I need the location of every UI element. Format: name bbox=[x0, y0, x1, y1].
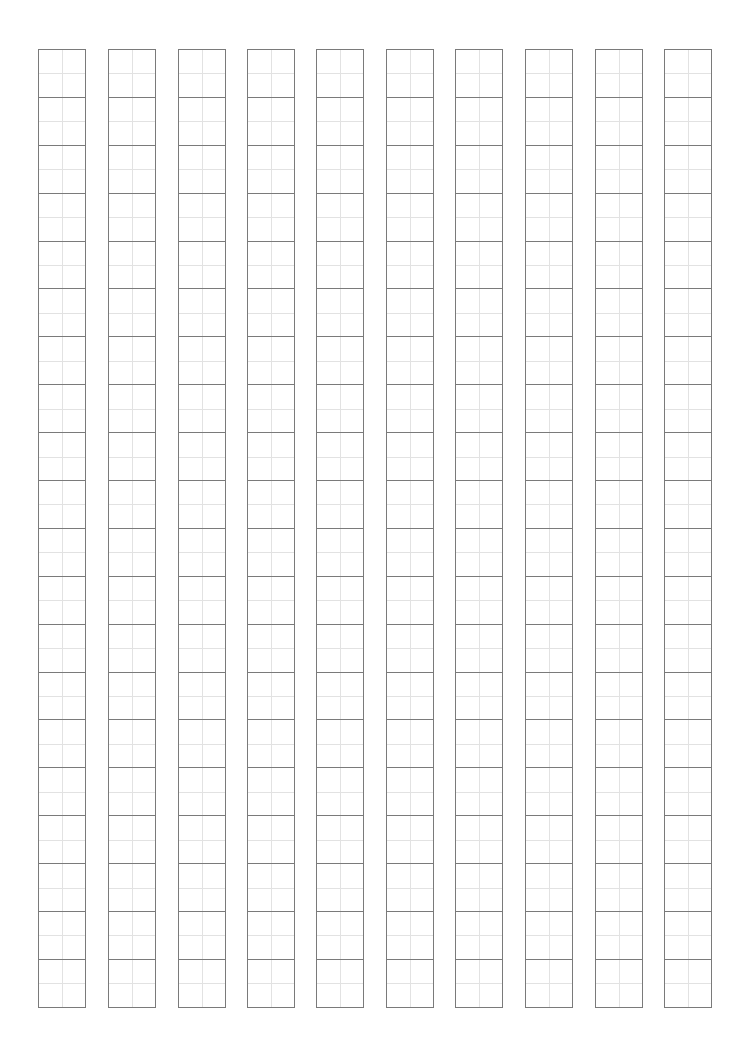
grid-cell bbox=[665, 673, 711, 721]
grid-cell bbox=[248, 673, 294, 721]
grid-cell bbox=[317, 768, 363, 816]
grid-cell bbox=[317, 625, 363, 673]
grid-cell bbox=[39, 337, 85, 385]
grid-cell bbox=[39, 385, 85, 433]
grid-cell bbox=[387, 50, 433, 98]
grid-cell bbox=[179, 289, 225, 337]
grid-cell bbox=[109, 481, 155, 529]
grid-cell bbox=[179, 529, 225, 577]
grid-cell bbox=[596, 720, 642, 768]
grid-cell bbox=[317, 529, 363, 577]
grid-column-2 bbox=[108, 49, 156, 1008]
grid-cell bbox=[456, 673, 502, 721]
grid-cell bbox=[109, 98, 155, 146]
grid-cell bbox=[596, 768, 642, 816]
grid-cell bbox=[39, 720, 85, 768]
grid-cell bbox=[248, 577, 294, 625]
grid-cell bbox=[526, 673, 572, 721]
grid-cell bbox=[248, 433, 294, 481]
grid-cell bbox=[248, 385, 294, 433]
grid-cell bbox=[317, 912, 363, 960]
grid-cell bbox=[456, 50, 502, 98]
grid-cell bbox=[109, 433, 155, 481]
grid-cell bbox=[39, 433, 85, 481]
grid-cell bbox=[109, 768, 155, 816]
grid-cell bbox=[596, 385, 642, 433]
grid-cell bbox=[387, 289, 433, 337]
grid-cell bbox=[665, 433, 711, 481]
grid-cell bbox=[317, 481, 363, 529]
grid-cell bbox=[387, 960, 433, 1007]
grid-cell bbox=[179, 98, 225, 146]
grid-cell bbox=[39, 194, 85, 242]
grid-column-3 bbox=[178, 49, 226, 1008]
grid-cell bbox=[387, 720, 433, 768]
grid-cell bbox=[39, 481, 85, 529]
grid-cell bbox=[248, 625, 294, 673]
grid-cell bbox=[456, 242, 502, 290]
grid-cell bbox=[109, 912, 155, 960]
grid-column-6 bbox=[386, 49, 434, 1008]
grid-column-1 bbox=[38, 49, 86, 1008]
grid-cell bbox=[248, 242, 294, 290]
grid-cell bbox=[387, 673, 433, 721]
grid-cell bbox=[109, 337, 155, 385]
grid-cell bbox=[596, 146, 642, 194]
grid-cell bbox=[387, 337, 433, 385]
grid-cell bbox=[317, 385, 363, 433]
grid-cell bbox=[317, 816, 363, 864]
grid-cell bbox=[179, 673, 225, 721]
grid-column-7 bbox=[455, 49, 503, 1008]
grid-column-8 bbox=[525, 49, 573, 1008]
grid-cell bbox=[526, 816, 572, 864]
grid-cell bbox=[39, 577, 85, 625]
grid-cell bbox=[596, 50, 642, 98]
grid-cell bbox=[526, 289, 572, 337]
grid-cell bbox=[665, 577, 711, 625]
grid-cell bbox=[248, 720, 294, 768]
grid-cell bbox=[456, 912, 502, 960]
grid-cell bbox=[39, 768, 85, 816]
grid-cell bbox=[526, 625, 572, 673]
grid-cell bbox=[248, 529, 294, 577]
grid-cell bbox=[39, 816, 85, 864]
grid-cell bbox=[248, 960, 294, 1007]
grid-cell bbox=[665, 864, 711, 912]
grid-cell bbox=[526, 194, 572, 242]
grid-cell bbox=[665, 337, 711, 385]
grid-cell bbox=[456, 146, 502, 194]
grid-cell bbox=[387, 194, 433, 242]
grid-cell bbox=[248, 194, 294, 242]
grid-cell bbox=[387, 242, 433, 290]
grid-cell bbox=[387, 481, 433, 529]
grid-cell bbox=[248, 768, 294, 816]
grid-cell bbox=[456, 481, 502, 529]
grid-column-10 bbox=[664, 49, 712, 1008]
grid-cell bbox=[109, 864, 155, 912]
grid-cell bbox=[665, 242, 711, 290]
grid-cell bbox=[456, 194, 502, 242]
grid-cell bbox=[665, 912, 711, 960]
grid-cell bbox=[179, 816, 225, 864]
grid-cell bbox=[179, 481, 225, 529]
grid-cell bbox=[248, 816, 294, 864]
grid-cell bbox=[665, 625, 711, 673]
grid-cell bbox=[39, 960, 85, 1007]
grid-cell bbox=[456, 816, 502, 864]
grid-cell bbox=[526, 50, 572, 98]
grid-cell bbox=[665, 720, 711, 768]
grid-cell bbox=[456, 289, 502, 337]
grid-cell bbox=[248, 98, 294, 146]
grid-cell bbox=[179, 433, 225, 481]
grid-cell bbox=[596, 194, 642, 242]
grid-cell bbox=[39, 912, 85, 960]
grid-cell bbox=[456, 768, 502, 816]
grid-column-4 bbox=[247, 49, 295, 1008]
grid-cell bbox=[665, 194, 711, 242]
grid-cell bbox=[317, 289, 363, 337]
grid-cell bbox=[526, 242, 572, 290]
grid-cell bbox=[387, 625, 433, 673]
grid-cell bbox=[665, 816, 711, 864]
grid-cell bbox=[387, 98, 433, 146]
grid-cell bbox=[456, 625, 502, 673]
